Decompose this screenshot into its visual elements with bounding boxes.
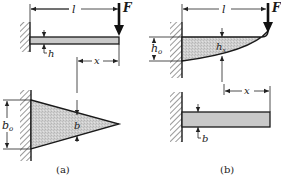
root-height-label: ho	[151, 42, 162, 56]
force-arrow-icon	[114, 25, 124, 36]
wall-support	[170, 92, 182, 142]
width-label: b	[74, 120, 80, 131]
width-label: b	[202, 133, 208, 144]
panel-a: l F h x	[2, 1, 133, 175]
length-label: l	[72, 3, 76, 16]
wall-support	[170, 22, 182, 78]
position-label: x	[94, 55, 100, 66]
force-arrow-icon	[263, 22, 273, 33]
panel-a-elevation: l F h x	[20, 1, 133, 93]
thickness-label: h	[48, 48, 54, 59]
root-width-label: bo	[2, 119, 13, 133]
beam-elevation	[30, 37, 119, 44]
panel-b-plan: x b	[170, 84, 270, 144]
panel-a-plan: bo b	[2, 90, 119, 161]
panel-b: l F ho hx	[149, 1, 281, 175]
length-label: l	[222, 3, 226, 16]
force-label: F	[122, 1, 133, 15]
wall-support	[20, 22, 30, 52]
caption-b: (b)	[220, 164, 234, 175]
force-label: F	[271, 1, 281, 15]
panel-b-elevation: l F ho hx	[149, 1, 281, 82]
position-label: x	[244, 85, 250, 96]
beam-plan	[182, 112, 270, 127]
wall-support	[20, 90, 31, 161]
caption-a: (a)	[56, 164, 70, 175]
cantilever-beams-diagram: l F h x	[0, 0, 281, 178]
